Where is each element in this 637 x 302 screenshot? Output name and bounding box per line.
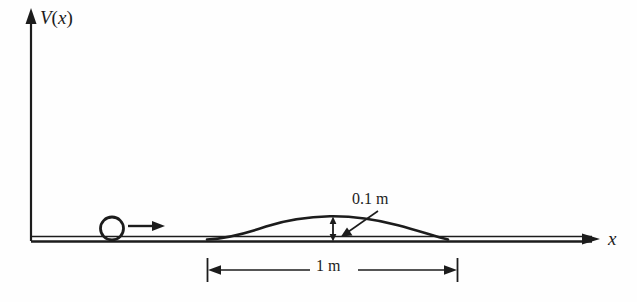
height-label-leader-line <box>348 211 378 232</box>
y-axis-label: V(x) <box>40 8 73 27</box>
bump-width-label: 1 m <box>316 258 340 274</box>
potential-energy-figure: V(x) x 0.1 m 1 m <box>0 0 637 302</box>
velocity-arrow-head <box>152 221 165 231</box>
height-dimension-arrowhead-top <box>330 217 337 225</box>
bump-height-label: 0.1 m <box>352 191 388 207</box>
y-axis-label-paren-close: ) <box>66 7 72 28</box>
y-axis-arrowhead <box>26 8 37 24</box>
width-dimension-arrowhead-right <box>444 265 457 275</box>
x-axis-label: x <box>608 229 616 248</box>
y-axis-label-variable: V <box>40 7 52 28</box>
x-axis-arrowhead <box>582 234 600 245</box>
height-label-leader-arrowhead <box>341 228 353 237</box>
width-dimension-arrowhead-left <box>208 265 221 275</box>
